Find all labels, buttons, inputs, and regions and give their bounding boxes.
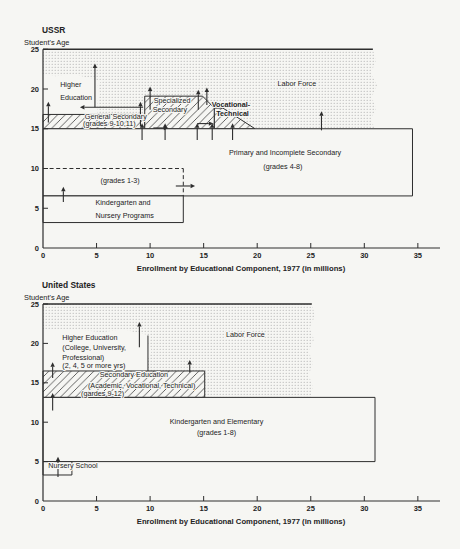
us-x-tick-label: 5	[94, 504, 98, 513]
us-y-tick-label: 15	[31, 378, 39, 387]
ussr-x-tick-label: 5	[94, 251, 98, 260]
us-x-tick-label: 0	[41, 504, 45, 513]
us-x-axis-label: Enrollment by Educational Component, 197…	[137, 517, 346, 526]
us-label-5: Secondary Education	[100, 370, 168, 379]
us-label-9: (grades 1-8)	[197, 428, 236, 437]
ussr-x-tick-label: 20	[253, 251, 261, 260]
ussr-label-0: Labor Force	[277, 79, 316, 88]
ussr-y-axis-title: Student's Age	[24, 38, 69, 47]
us-x-tick-label: 15	[199, 504, 207, 513]
us-x-tick-label: 35	[414, 504, 422, 513]
us-y-tick-label: 10	[31, 418, 39, 427]
us-label-10: Nursery School	[48, 461, 98, 470]
ussr-x-axis-label: Enrollment by Educational Component, 197…	[137, 264, 346, 273]
us-label-4: (2, 4, 5 or more yrs)	[62, 361, 125, 370]
scanned-enrollment-figure: Labor ForceHigherEducationGeneral Second…	[0, 0, 460, 549]
ussr-x-tick-label: 25	[307, 251, 315, 260]
us-x-tick-label: 25	[307, 504, 315, 513]
us-x-tick-label: 30	[360, 504, 368, 513]
ussr-label-8: Technical	[216, 109, 249, 118]
ussr-label-5: Specialized	[154, 96, 191, 105]
ussr-label-2: Education	[60, 93, 92, 102]
us-y-tick-label: 5	[35, 457, 39, 466]
ussr-label-11: (grades 1-3)	[101, 176, 140, 185]
ussr-x-tick-label: 0	[41, 251, 45, 260]
us-y-axis-title: Student's Age	[24, 293, 69, 302]
us-y-tick-label: 0	[35, 497, 39, 506]
ussr-panel: Labor ForceHigherEducationGeneral Second…	[24, 25, 440, 273]
ussr-y-tick-label: 10	[31, 164, 39, 173]
us-panel: Labor ForceHigher Education(College, Uni…	[24, 280, 440, 526]
ussr-label-13: Nursery Programs	[95, 211, 154, 220]
ussr-region-primary-and-incomplete-secondary	[43, 129, 412, 196]
ussr-label-7: Vocational-	[212, 100, 251, 109]
ussr-label-1: Higher	[60, 80, 82, 89]
us-y-tick-label: 20	[31, 339, 39, 348]
ussr-y-tick-label: 0	[35, 244, 39, 253]
us-label-2: (College, University,	[62, 343, 126, 352]
enrollment-comparison-chart: Labor ForceHigherEducationGeneral Second…	[0, 0, 460, 549]
ussr-label-6: Secondary	[153, 105, 188, 114]
ussr-label-12: Kindergarten and	[95, 198, 150, 207]
us-label-1: Higher Education	[62, 333, 117, 342]
ussr-x-tick-label: 15	[199, 251, 207, 260]
ussr-label-10: (grades 4-8)	[263, 162, 302, 171]
us-label-7: (gardes 9-12)	[81, 389, 124, 398]
ussr-y-tick-label: 15	[31, 124, 39, 133]
ussr-y-tick-label: 5	[35, 204, 39, 213]
us-x-tick-label: 10	[146, 504, 154, 513]
ussr-x-tick-label: 35	[414, 251, 422, 260]
us-label-0: Labor Force	[226, 330, 265, 339]
ussr-label-4: (grades 9-10,11)	[83, 119, 136, 128]
ussr-y-tick-label: 20	[31, 85, 39, 94]
us-label-8: Kindergarten and Elementary	[170, 417, 264, 426]
ussr-label-9: Primary and Incomplete Secondary	[229, 148, 342, 157]
ussr-x-tick-label: 30	[360, 251, 368, 260]
ussr-x-tick-label: 10	[146, 251, 154, 260]
ussr-title: USSR	[42, 25, 65, 35]
us-title: United States	[42, 280, 96, 290]
us-x-tick-label: 20	[253, 504, 261, 513]
